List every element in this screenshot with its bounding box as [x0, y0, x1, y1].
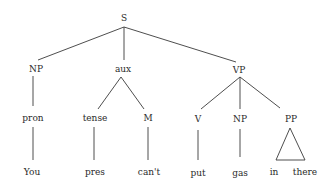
node-tense: tense — [83, 113, 108, 123]
edge-aux-tense — [98, 77, 121, 109]
edge-s-vp — [124, 27, 236, 62]
syntax-tree-diagram: S NP aux VP pron tense M V NP PP You pre… — [0, 0, 331, 185]
node-aux: aux — [115, 64, 131, 74]
node-np: NP — [29, 64, 43, 74]
leaf-cant: can't — [138, 167, 161, 177]
pp-triangle — [276, 128, 305, 160]
edge-aux-m — [121, 77, 144, 109]
node-pp: PP — [285, 114, 297, 124]
leaf-there: there — [293, 167, 317, 177]
node-vp: VP — [232, 65, 246, 75]
node-np2: NP — [233, 114, 247, 124]
leaf-pres: pres — [85, 167, 105, 177]
node-m: M — [143, 113, 152, 123]
edge-vp-v — [201, 77, 240, 109]
leaf-in: in — [270, 167, 279, 177]
node-pron: pron — [22, 113, 43, 123]
leaf-gas: gas — [232, 168, 248, 178]
node-s: S — [121, 13, 127, 23]
edge-vp-pp — [240, 77, 280, 108]
edge-s-np — [38, 27, 124, 60]
tree-svg: S NP aux VP pron tense M V NP PP You pre… — [0, 0, 331, 185]
leaf-you: You — [23, 167, 41, 177]
leaf-put: put — [190, 168, 206, 178]
node-v: V — [194, 114, 202, 124]
